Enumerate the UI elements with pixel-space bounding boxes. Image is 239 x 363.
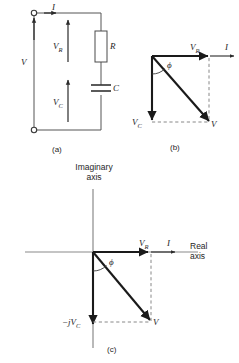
phasor-panel-b: [152, 56, 234, 122]
label-total-voltage-b: V: [211, 120, 217, 129]
caption-a: (a): [52, 145, 62, 154]
label-resistor-voltage-a-sub: R: [59, 46, 63, 53]
caption-c: (c): [107, 345, 116, 354]
label-current-c: I: [167, 239, 170, 248]
caption-b: (b): [170, 143, 180, 152]
resistor-symbol: [95, 31, 107, 62]
label-source-voltage-a: V: [21, 58, 27, 67]
imaginary-axis-label-line2: axis: [66, 173, 122, 183]
label-resistor-voltage-c-sub: R: [145, 243, 149, 250]
label-resistor-a: R: [110, 42, 116, 51]
label-capacitor-voltage-a-sub: C: [59, 102, 63, 109]
label-resistor-voltage-b-sub: R: [196, 47, 200, 54]
label-phase-angle-b: ϕ: [167, 60, 172, 70]
imaginary-axis-label: Imaginary axis: [66, 163, 122, 183]
label-phase-angle-c: ϕ: [109, 257, 114, 267]
label-capacitor-voltage-c: −jVC: [62, 318, 80, 329]
phasor-panel-c: [25, 189, 198, 348]
label-capacitor-voltage-c-main: −jV: [62, 317, 76, 327]
phasor-v-c: [93, 252, 150, 320]
real-axis-label-line2: axis: [190, 252, 230, 262]
phasor-v-b: [152, 56, 209, 121]
label-capacitor-voltage-b-sub: C: [138, 122, 142, 129]
label-resistor-voltage-c: VR: [139, 239, 148, 250]
label-current-a: I: [52, 3, 55, 12]
label-resistor-voltage-a: VR: [53, 42, 62, 53]
label-total-voltage-c: V: [153, 318, 159, 327]
terminal-bottom: [31, 127, 36, 132]
label-current-b: I: [225, 43, 228, 52]
real-axis-label: Real axis: [190, 242, 230, 262]
label-capacitor-voltage-a: VC: [53, 98, 63, 109]
figure-root: I V VR VC R C (a) VR I VC V ϕ (b) Imagin…: [0, 0, 239, 363]
terminal-top: [31, 10, 36, 15]
circuit-panel-a: [31, 10, 111, 132]
label-capacitor-voltage-b: VC: [132, 118, 142, 129]
label-capacitor-a: C: [113, 84, 119, 93]
label-capacitor-voltage-c-sub: C: [76, 322, 80, 329]
label-resistor-voltage-b: VR: [190, 43, 199, 54]
